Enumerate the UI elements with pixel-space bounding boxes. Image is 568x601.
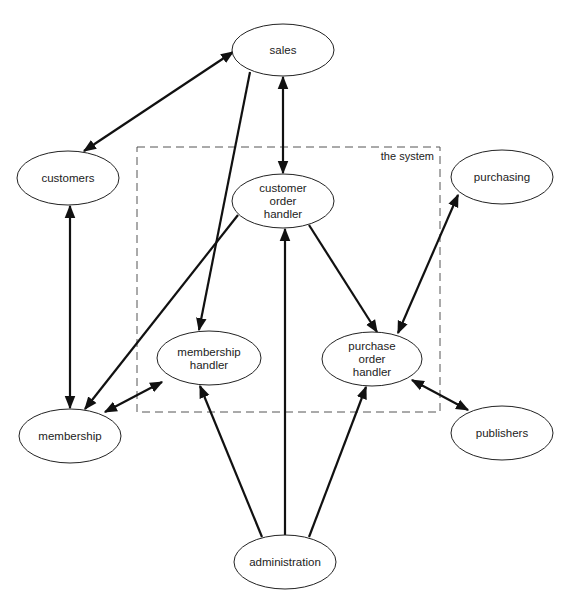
edge-administration-membership-handler <box>200 386 262 537</box>
node-purchase-order-handler: purchaseorderhandler <box>322 332 422 386</box>
node-label: publishers <box>476 427 529 439</box>
node-membership: membership <box>19 409 121 463</box>
edge-customer-order-handler-purchase-order-handler <box>309 225 377 332</box>
node-label: handler <box>264 208 303 220</box>
node-label: handler <box>190 359 229 371</box>
node-label: customer <box>259 182 306 194</box>
node-label: membership <box>38 430 101 442</box>
node-sales: sales <box>232 24 334 76</box>
node-label: handler <box>353 366 392 378</box>
node-label: order <box>359 353 386 365</box>
edge-purchasing-purchase-order-handler <box>398 195 458 333</box>
node-administration: administration <box>234 535 336 589</box>
node-label: administration <box>249 556 321 568</box>
node-label: purchase <box>348 340 395 352</box>
node-label: purchasing <box>474 171 530 183</box>
node-label: order <box>270 195 297 207</box>
node-customers: customers <box>17 151 119 205</box>
edge-administration-purchase-order-handler <box>309 387 366 537</box>
node-label: sales <box>270 44 297 56</box>
system-boundary-label: the system <box>381 150 434 162</box>
node-label: membership <box>177 346 240 358</box>
edge-customers-sales <box>84 52 233 151</box>
node-purchasing: purchasing <box>451 150 553 204</box>
system-context-diagram: the system salescustomerscustomerorderha… <box>0 0 568 601</box>
node-customer-order-handler: customerorderhandler <box>232 174 334 228</box>
edge-membership-membership-handler <box>105 382 162 412</box>
node-label: customers <box>41 172 94 184</box>
node-membership-handler: membershiphandler <box>157 331 261 385</box>
node-publishers: publishers <box>451 406 553 460</box>
